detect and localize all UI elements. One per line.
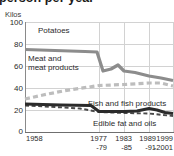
x-tick-1999-2001-line1: 1999 [156,134,173,143]
x-tick-1977-79-line1: 1977 [90,134,107,143]
x-tick-1983-85-line1: 1983 [115,134,132,143]
y-tick-40: 40 [1,84,23,93]
figure-title-text: person per year [0,0,94,5]
y-tick-20: 20 [1,106,23,115]
x-tick-1983-85: 1983 -85 [110,134,132,152]
chart-figure: person per year Kilos 100 80 60 40 20 0 [0,0,174,156]
y-tick-100: 100 [1,18,23,27]
series-lines [25,22,174,133]
y-axis-ticks: 100 80 60 40 20 0 [0,22,23,133]
x-tick-1958-line1: 1958 [26,134,43,143]
y-tick-60: 60 [1,62,23,71]
series-label-fat: Edible fat and oils [93,119,156,128]
series-label-meat-line1: Meat and [28,54,61,63]
x-tick-1999-2001-line2: -2001 [150,143,173,152]
series-line-meat [25,83,173,99]
series-label-fish: Fish and fish products [88,99,166,108]
y-tick-80: 80 [1,40,23,49]
x-tick-1958: 1958 [26,134,43,143]
plot-area: Potatoes Meat and meat products Fish and… [25,22,174,133]
x-tick-1977-79: 1977 -79 [85,134,107,152]
series-label-potatoes: Potatoes [38,26,70,35]
x-tick-1983-85-line2: -85 [110,143,132,152]
series-label-meat-line2: meat products [28,63,79,72]
x-tick-1999-2001: 1999 -2001 [150,134,173,152]
x-tick-1977-79-line2: -79 [85,143,107,152]
figure-title-cropped: person per year [0,0,174,9]
y-tick-0: 0 [1,127,23,136]
